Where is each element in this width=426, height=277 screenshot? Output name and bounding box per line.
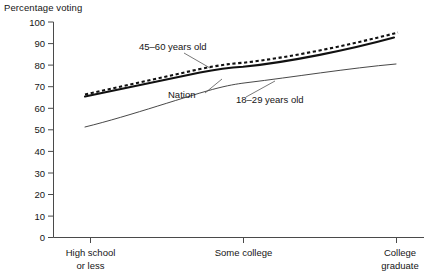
chart-container: Percentage voting 100 90 80 70 60 5 — [0, 0, 426, 277]
y-axis-tick-labels: 100 90 80 70 60 50 40 30 20 10 0 — [29, 17, 45, 244]
y-tick-label: 70 — [34, 81, 45, 92]
y-tick-label: 80 — [34, 60, 45, 71]
series-annotation-18-29: 18–29 years old — [236, 94, 304, 105]
series-annotation-45-60: 45–60 years old — [139, 41, 207, 52]
leader-line-45-60 — [184, 53, 210, 68]
x-tick-label-high-school-line2: or less — [77, 260, 105, 271]
y-tick-label: 30 — [34, 168, 45, 179]
y-tick-label: 100 — [29, 17, 45, 28]
chart-plot-area: 100 90 80 70 60 50 40 30 20 10 0 High sc… — [0, 0, 426, 277]
y-tick-label: 50 — [34, 124, 45, 135]
x-tick-label-some-college: Some college — [215, 247, 273, 258]
y-tick-label: 60 — [34, 103, 45, 114]
x-tick-label-high-school: High school — [66, 247, 116, 258]
y-tick-label: 20 — [34, 189, 45, 200]
y-tick-label: 0 — [40, 232, 45, 243]
y-tick-label: 90 — [34, 38, 45, 49]
series-line-45-60 — [85, 33, 398, 95]
y-tick-label: 10 — [34, 211, 45, 222]
y-axis-ticks — [48, 22, 54, 238]
x-axis-ticks — [91, 238, 397, 244]
series-annotation-nation: Nation — [168, 89, 195, 100]
y-tick-label: 40 — [34, 146, 45, 157]
x-tick-label-college-graduate: College — [384, 247, 416, 258]
x-tick-label-college-graduate-line2: graduate — [381, 260, 419, 271]
series-line-nation — [85, 38, 394, 97]
x-axis-category-labels: High school or less Some college College… — [66, 247, 419, 271]
leader-line-nation — [205, 79, 222, 93]
